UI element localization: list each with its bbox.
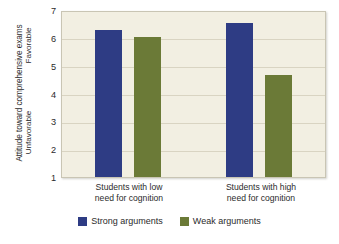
legend-swatch-strong-icon (78, 217, 87, 226)
legend-label-strong: Strong arguments (91, 216, 163, 226)
plot-area (61, 11, 326, 178)
y-axis-title: Attitude toward comprehensive exams (14, 0, 24, 188)
y-axis-anchor-unfavorable: Unfavorable (24, 96, 33, 170)
category-label-high-need-line1: Students with high (196, 182, 326, 193)
legend-entry-weak-arguments: Weak arguments (180, 216, 261, 226)
chart-legend: Strong arguments Weak arguments (0, 216, 339, 226)
bar-high-need-weak-arguments (265, 75, 292, 177)
y-tick-6: 6 (42, 34, 56, 44)
legend-entry-strong-arguments: Strong arguments (78, 216, 163, 226)
category-label-low-need: Students with low need for cognition (64, 182, 194, 203)
bar-high-need-strong-arguments (226, 23, 253, 177)
category-label-high-need: Students with high need for cognition (196, 182, 326, 203)
category-label-low-need-line2: need for cognition (64, 193, 194, 204)
legend-label-weak: Weak arguments (193, 216, 261, 226)
y-tick-7: 7 (42, 6, 56, 16)
y-tick-5: 5 (42, 62, 56, 72)
figure-caption (0, 234, 339, 244)
y-tick-2: 2 (42, 145, 56, 155)
category-label-high-need-line2: need for cognition (196, 193, 326, 204)
category-label-low-need-line1: Students with low (64, 182, 194, 193)
legend-swatch-weak-icon (180, 217, 189, 226)
y-tick-3: 3 (42, 117, 56, 127)
bar-low-need-weak-arguments (134, 37, 161, 177)
y-tick-4: 4 (42, 90, 56, 100)
bar-low-need-strong-arguments (95, 30, 122, 177)
y-tick-1: 1 (42, 173, 56, 183)
bar-chart-figure: Attitude toward comprehensive exams Favo… (0, 0, 339, 244)
y-axis-anchor-favorable: Favorable (24, 15, 33, 77)
